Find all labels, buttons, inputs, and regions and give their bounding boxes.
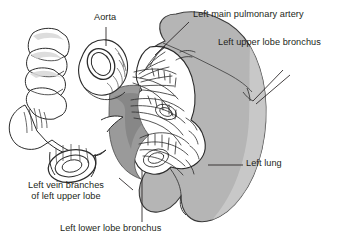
bronchial-bifurcation <box>9 105 123 187</box>
label-left-main-pulmonary-artery: Left main pulmonary artery <box>193 9 304 20</box>
label-left-lower-lobe-bronchus: Left lower lobe bronchus <box>60 223 161 234</box>
leader-vein-branches <box>119 178 133 190</box>
label-left-vein-branches-line1: Left vein branches <box>28 180 104 190</box>
trachea-main-bronchus <box>25 28 69 119</box>
label-left-lung: Left lung <box>246 158 282 169</box>
label-aorta: Aorta <box>94 12 116 23</box>
anatomy-figure: Aorta Left main pulmonary artery Left up… <box>0 0 353 247</box>
label-left-vein-branches-line2: of left upper lobe <box>31 191 100 201</box>
label-left-upper-lobe-bronchus: Left upper lobe bronchus <box>218 37 321 48</box>
